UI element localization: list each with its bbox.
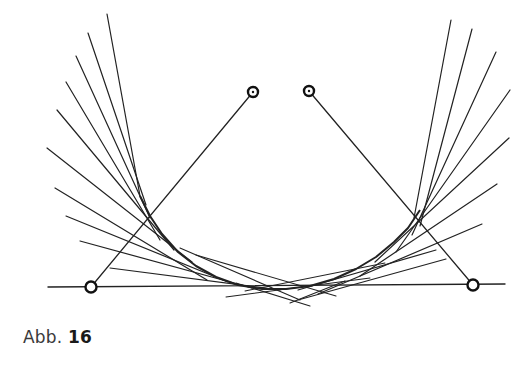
control-point-1-center-dot — [252, 91, 254, 93]
figure-caption: Abb. 16 — [23, 327, 92, 347]
tangent-line-right — [375, 138, 509, 262]
tangent-line-right — [396, 90, 510, 252]
envelope-curve-path — [140, 196, 420, 289]
tangent-line-right — [412, 52, 496, 235]
tangent-line-right — [414, 20, 451, 218]
tangent-line-left — [55, 188, 207, 280]
end-point-icon — [468, 280, 479, 291]
tangent-lines — [47, 14, 510, 306]
start-point-icon — [86, 282, 97, 293]
control-polygon-line — [91, 92, 253, 287]
control-point-2-center-dot — [308, 90, 310, 92]
envelope-diagram — [0, 0, 531, 378]
tangent-line-right — [318, 224, 482, 294]
tangent-line-left — [88, 33, 146, 205]
control-polygon — [91, 91, 473, 287]
caption-number: 16 — [68, 327, 92, 347]
tangent-line-bottom — [245, 263, 385, 291]
tangent-line-left — [47, 148, 192, 262]
tangent-line-left — [57, 110, 174, 250]
tangent-line-left — [76, 56, 150, 218]
caption-prefix: Abb. — [23, 327, 62, 347]
envelope-curve — [140, 196, 420, 289]
